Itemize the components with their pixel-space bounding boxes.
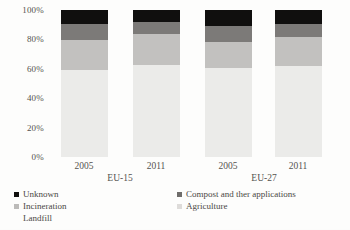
bar-eu-27-2011 [275, 10, 322, 157]
y-tick-label: 20% [4, 123, 44, 133]
bar-segment [275, 66, 322, 157]
bar-segment [205, 26, 252, 42]
bar-segment [275, 37, 322, 66]
bar-segment [133, 65, 180, 157]
bar-eu-15-2005 [61, 10, 108, 157]
y-tick-label: 80% [4, 34, 44, 44]
bar-segment [133, 22, 180, 34]
y-tick-label: 100% [4, 5, 44, 15]
legend-swatch-icon [14, 216, 19, 221]
x-tick-label: 2011 [126, 161, 186, 171]
bar-segment [61, 40, 108, 69]
legend-swatch-icon [14, 192, 19, 197]
bar-segment [205, 68, 252, 157]
y-tick-label: 60% [4, 64, 44, 74]
y-tick-label: 0% [4, 152, 44, 162]
bar-segment [133, 34, 180, 65]
legend-item[interactable]: Compost and ther applications [177, 188, 296, 200]
legend-item[interactable]: Unknown [14, 188, 66, 200]
plot-area [52, 10, 338, 157]
legend-label: Incineration [23, 202, 66, 211]
bar-segment [275, 24, 322, 37]
legend-swatch-icon [14, 204, 19, 209]
legend-item[interactable]: Incineration [14, 200, 66, 212]
bar-eu-15-2011 [133, 10, 180, 157]
bar-segment [133, 10, 180, 22]
x-tick-label: 2005 [54, 161, 114, 171]
y-tick-label: 40% [4, 93, 44, 103]
bar-segment [61, 24, 108, 40]
group-label-eu27: EU-27 [229, 173, 299, 183]
bar-segment [205, 10, 252, 26]
x-tick-label: 2011 [268, 161, 328, 171]
legend-swatch-icon [177, 192, 182, 197]
bar-segment [61, 70, 108, 157]
bar-segment [205, 42, 252, 68]
legend-column-left: UnknownIncinerationLandfill [14, 188, 66, 224]
bar-segment [61, 10, 108, 24]
stacked-bar-chart: 100% 80% 60% 40% 20% 0% 2005 2011 2005 2… [0, 0, 350, 230]
x-tick-label: 2005 [198, 161, 258, 171]
legend-swatch-icon [177, 204, 182, 209]
legend-label: Compost and ther applications [186, 190, 296, 199]
legend-column-right: Compost and ther applicationsAgriculture [177, 188, 296, 212]
legend-label: Agriculture [186, 202, 227, 211]
legend-label: Unknown [23, 190, 59, 199]
legend-item[interactable]: Agriculture [177, 200, 296, 212]
group-label-eu15: EU-15 [85, 173, 155, 183]
bar-eu-27-2005 [205, 10, 252, 157]
bar-segment [275, 10, 322, 24]
legend-label: Landfill [23, 214, 52, 223]
legend-item[interactable]: Landfill [14, 212, 66, 224]
